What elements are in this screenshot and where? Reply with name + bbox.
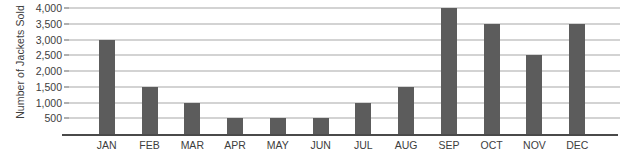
bar-chart: Number of Jackets Sold 5001,0001,5002,00… bbox=[0, 0, 628, 166]
bar bbox=[526, 55, 542, 134]
y-tick-label: 1,000 bbox=[18, 97, 62, 109]
x-tick-label: AUG bbox=[383, 139, 429, 151]
y-tick-label: 2,500 bbox=[18, 49, 62, 61]
y-tick-label: 500 bbox=[18, 112, 62, 124]
x-tick-label: FEB bbox=[127, 139, 173, 151]
y-tick-label: 4,000 bbox=[18, 2, 62, 14]
bar bbox=[398, 87, 414, 134]
x-axis-tick-labels: JANFEBMARAPRMAYJUNJULAUGSEPOCTNOVDEC bbox=[64, 139, 620, 161]
bar bbox=[441, 8, 457, 134]
bar bbox=[99, 40, 115, 135]
bar bbox=[313, 118, 329, 134]
x-tick-label: APR bbox=[212, 139, 258, 151]
bar bbox=[227, 118, 243, 134]
bar bbox=[484, 24, 500, 134]
y-axis-tick-labels: 5001,0001,5002,0002,5003,0003,5004,000 bbox=[18, 8, 62, 134]
x-tick-label: OCT bbox=[469, 139, 515, 151]
bars-layer bbox=[64, 8, 620, 134]
x-tick-label: MAY bbox=[255, 139, 301, 151]
bar bbox=[569, 24, 585, 134]
bar bbox=[270, 118, 286, 134]
y-tick-label: 2,000 bbox=[18, 65, 62, 77]
x-tick-label: JUL bbox=[340, 139, 386, 151]
x-tick-label: JUN bbox=[298, 139, 344, 151]
x-tick-label: DEC bbox=[554, 139, 600, 151]
bar bbox=[355, 103, 371, 135]
y-tick-label: 3,500 bbox=[18, 18, 62, 30]
x-tick-label: NOV bbox=[511, 139, 557, 151]
y-tick-label: 1,500 bbox=[18, 81, 62, 93]
x-tick-label: MAR bbox=[169, 139, 215, 151]
x-tick-label: JAN bbox=[84, 139, 130, 151]
x-axis-line bbox=[62, 134, 618, 136]
bar bbox=[184, 103, 200, 135]
bar bbox=[142, 87, 158, 134]
y-tick-label: 3,000 bbox=[18, 34, 62, 46]
x-tick-label: SEP bbox=[426, 139, 472, 151]
